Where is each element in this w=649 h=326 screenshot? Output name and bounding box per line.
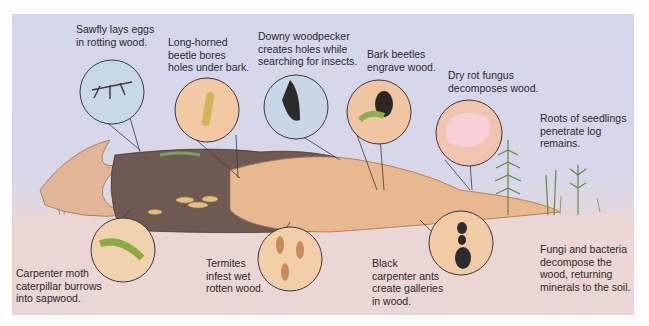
label-sawfly: Sawfly lays eggs in rotting wood. <box>76 23 154 48</box>
label-carpenter-ants: Black carpenter ants create galleries in… <box>372 257 443 307</box>
label-fungi-bacteria: Fungi and bacteria decompose the wood, r… <box>540 243 630 293</box>
label-termites: Termites infest wet rotten wood. <box>206 257 264 295</box>
label-woodpecker: Downy woodpecker creates holes while sea… <box>258 30 357 68</box>
label-seedlings: Roots of seedlings penetrate log remains… <box>540 112 626 150</box>
label-long-horned-beetle: Long-horned beetle bores holes under bar… <box>168 36 249 74</box>
inset-sawfly <box>80 60 144 124</box>
inset-termites <box>258 227 322 291</box>
label-carpenter-moth: Carpenter moth caterpillar burrows into … <box>16 267 102 305</box>
label-dry-rot: Dry rot fungus decomposes wood. <box>448 69 538 94</box>
label-bark-beetles: Bark beetles engrave wood. <box>367 48 436 73</box>
